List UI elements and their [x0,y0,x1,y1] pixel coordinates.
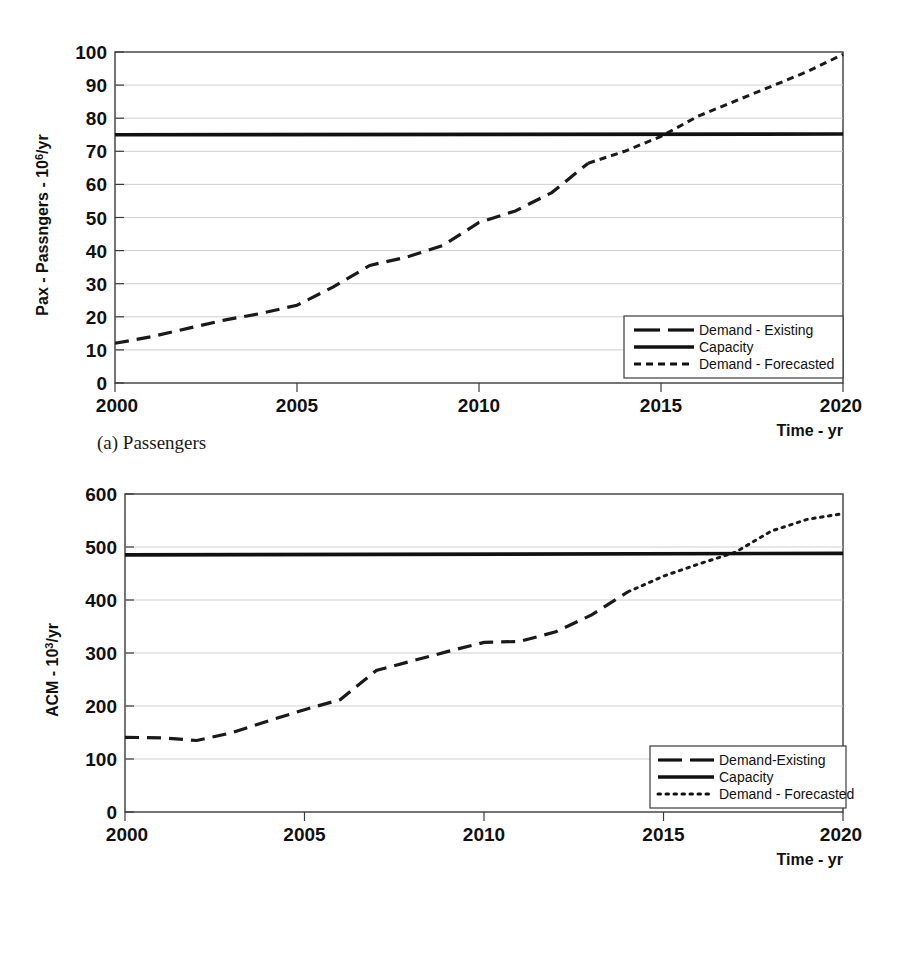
svg-text:ACM - 103/yr: ACM - 103/yr [43,623,61,717]
x-tick-b-2005: 2005 [283,824,326,845]
x-tick-labels-b: 2000 2005 2010 2015 2020 [106,824,862,845]
legend-label-demand-existing-b: Demand-Existing [719,752,826,768]
legend-label-capacity-b: Capacity [719,769,773,785]
legend-a[interactable]: Demand - Existing Capacity Demand - Fore… [624,316,843,378]
x-tick-labels-a: 2000 2005 2010 2015 2020 [96,395,862,416]
y-tick-a-20: 20 [86,307,107,328]
x-tick-b-2000: 2000 [106,824,148,845]
y-tick-b-300: 300 [85,643,117,664]
y-axis-title-a-tail: /yr [34,134,51,154]
series-capacity-a [115,134,843,135]
x-tick-b-2010: 2010 [463,824,505,845]
legend-label-demand-forecasted-b: Demand - Forecasted [719,786,854,802]
caption-passengers: (a) Passengers [97,432,206,454]
legend-b[interactable]: Demand-Existing Capacity Demand - Foreca… [650,746,854,808]
y-tick-b-500: 500 [85,537,117,558]
series-capacity-b [125,553,843,555]
passengers-chart: Pax - Passngers - 106/yr [0,0,907,478]
y-axis-title-b-main: ACM - 10 [44,649,61,718]
y-tick-b-100: 100 [85,749,117,770]
x-tick-marks-b [125,812,843,821]
y-tick-labels-a: 0 10 20 30 40 50 60 70 80 90 100 [75,42,107,394]
x-axis-title-b: Time - yr [777,851,843,868]
y-tick-a-0: 0 [96,373,107,394]
y-axis-title-a: Pax - Passngers - 106/yr [33,134,51,315]
aircraft-movements-chart: ACM - 103/yr [0,470,907,910]
y-tick-a-70: 70 [86,141,107,162]
x-axis-title-a: Time - yr [777,422,843,439]
y-tick-b-600: 600 [85,484,117,505]
x-tick-a-2015: 2015 [640,395,683,416]
y-tick-a-90: 90 [86,75,107,96]
y-tick-b-0: 0 [106,802,117,823]
y-tick-b-200: 200 [85,696,117,717]
y-tick-a-60: 60 [86,174,107,195]
y-tick-a-30: 30 [86,274,107,295]
y-tick-a-50: 50 [86,208,107,229]
svg-text:Pax - Passngers - 106/yr: Pax - Passngers - 106/yr [33,134,51,315]
x-tick-a-2005: 2005 [276,395,319,416]
x-tick-b-2020: 2020 [820,824,862,845]
y-axis-title-b: ACM - 103/yr [43,623,61,717]
x-tick-marks-a [115,383,843,392]
y-tick-a-40: 40 [86,241,107,262]
y-axis-title-a-main: Pax - Passngers - 10 [34,160,51,316]
x-tick-a-2020: 2020 [820,395,862,416]
legend-label-capacity-a: Capacity [699,339,753,355]
chart-panel-aircraft-movements: ACM - 103/yr [0,470,907,957]
x-tick-b-2015: 2015 [642,824,685,845]
y-tick-a-100: 100 [75,42,107,63]
figure-container: Pax - Passngers - 106/yr [0,0,907,957]
x-tick-a-2010: 2010 [458,395,500,416]
y-axis-title-b-tail: /yr [44,623,61,643]
x-tick-a-2000: 2000 [96,395,138,416]
y-tick-a-10: 10 [86,340,107,361]
y-tick-labels-b: 0 100 200 300 400 500 600 [85,484,117,823]
y-tick-b-400: 400 [85,590,117,611]
legend-label-demand-forecasted-a: Demand - Forecasted [699,356,834,372]
chart-panel-passengers: Pax - Passngers - 106/yr [0,0,907,478]
y-tick-a-80: 80 [86,108,107,129]
legend-label-demand-existing-a: Demand - Existing [699,322,813,338]
